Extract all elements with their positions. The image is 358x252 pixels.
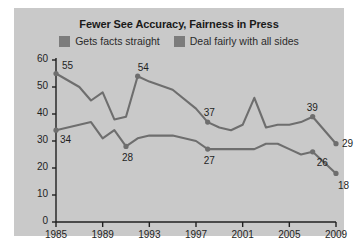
chart-svg: [14, 8, 344, 236]
y-axis-tick-label: 50: [26, 80, 48, 91]
x-axis-tick-label: 1989: [83, 229, 123, 240]
y-axis-tick-label: 10: [26, 188, 48, 199]
data-point-label: 28: [122, 152, 133, 163]
x-axis-tick-label: 1985: [36, 229, 76, 240]
data-point-label: 34: [60, 134, 71, 145]
y-axis-tick-label: 20: [26, 161, 48, 172]
data-point-label: 27: [204, 155, 215, 166]
data-point-label: 55: [62, 60, 73, 71]
data-point-label: 18: [338, 180, 349, 191]
x-axis-tick-label: 1993: [129, 229, 169, 240]
y-axis-tick-label: 40: [26, 107, 48, 118]
data-point-label: 54: [138, 62, 149, 73]
chart-figure: Fewer See Accuracy, Fairness in Press Ge…: [14, 8, 344, 236]
x-axis-tick-label: 2005: [269, 229, 309, 240]
y-axis-tick-label: 0: [26, 215, 48, 226]
data-point-label: 29: [342, 138, 353, 149]
plot-area: 0102030405060198519891993199720012005200…: [14, 8, 344, 236]
x-axis-tick-label: 1997: [176, 229, 216, 240]
y-axis-tick-label: 60: [26, 53, 48, 64]
data-point-label: 39: [307, 102, 318, 113]
data-point-label: 26: [317, 157, 328, 168]
x-axis-tick-label: 2009: [316, 229, 356, 240]
x-axis-tick-label: 2001: [223, 229, 263, 240]
y-axis-tick-label: 30: [26, 134, 48, 145]
data-point-label: 37: [204, 107, 215, 118]
